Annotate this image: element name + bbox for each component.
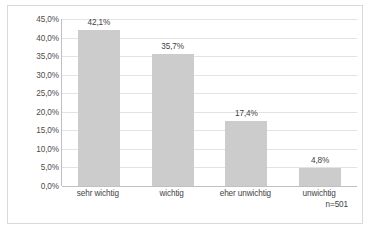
bar: [78, 30, 120, 186]
y-axis-tick-label: 15,0%: [11, 126, 59, 135]
y-axis-tick-label: 40,0%: [11, 33, 59, 42]
x-axis-tick-label: wichtig: [135, 189, 209, 198]
y-axis-tick-label: 20,0%: [11, 107, 59, 116]
y-axis-tick-label: 25,0%: [11, 89, 59, 98]
bar-value-label: 35,7%: [143, 42, 203, 51]
bar-value-label: 4,8%: [290, 156, 350, 165]
x-axis-tick-label: eher unwichtig: [209, 189, 283, 198]
y-axis-tick-label: 45,0%: [11, 15, 59, 24]
axis-baseline: [62, 186, 357, 187]
y-axis-tick-label: 10,0%: [11, 144, 59, 153]
bar-value-label: 42,1%: [69, 18, 129, 27]
bar-value-label: 17,4%: [216, 109, 276, 118]
y-axis-tick-label: 30,0%: [11, 70, 59, 79]
plot-area: 42,1%35,7%17,4%4,8%: [61, 19, 357, 186]
y-axis-tick-label: 35,0%: [11, 52, 59, 61]
bar: [225, 121, 267, 186]
chart-frame: 0,0%5,0%10,0%15,0%20,0%25,0%30,0%35,0%40…: [7, 5, 363, 224]
bar: [299, 168, 341, 186]
y-axis-tick-label: 0,0%: [11, 182, 59, 191]
x-axis: sehr wichtigwichtigeher unwichtigunwicht…: [61, 189, 357, 205]
bar: [152, 54, 194, 186]
y-axis: 0,0%5,0%10,0%15,0%20,0%25,0%30,0%35,0%40…: [8, 19, 59, 186]
sample-size-annotation: n=501: [326, 200, 349, 209]
x-axis-tick-label: sehr wichtig: [61, 189, 135, 198]
y-axis-tick-label: 5,0%: [11, 163, 59, 172]
x-axis-tick-label: unwichtig: [282, 189, 356, 198]
